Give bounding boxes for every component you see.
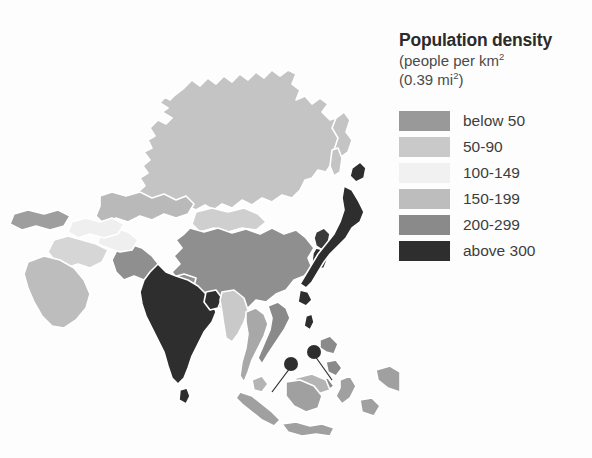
legend-swatch-50-90 <box>399 137 450 157</box>
legend-label-200-299: 200-299 <box>463 215 520 235</box>
region-russia <box>137 70 342 210</box>
region-taiwan <box>304 314 314 330</box>
map-legend: Population density (people per km2 (0.39… <box>399 30 589 264</box>
region-sri-lanka <box>179 388 190 404</box>
legend-row-50-90: 50-90 <box>399 134 589 160</box>
region-japan <box>298 162 366 306</box>
legend-subtitle-line-2: (0.39 mi2) <box>399 70 589 89</box>
legend-label-below-50: below 50 <box>463 111 525 131</box>
legend-row-200-299: 200-299 <box>399 212 589 238</box>
legend-row-100-149: 100-149 <box>399 160 589 186</box>
legend-label-100-149: 100-149 <box>463 163 520 183</box>
legend-label-150-199: 150-199 <box>463 189 520 209</box>
region-arabia <box>24 256 90 328</box>
legend-swatch-below-50 <box>399 111 450 131</box>
region-sakhalin <box>330 148 342 176</box>
legend-row-below-50: below 50 <box>399 108 589 134</box>
legend-swatch-100-149 <box>399 163 450 183</box>
legend-label-above-300: above 300 <box>463 241 535 261</box>
legend-subtitle-text-1: (people per km <box>399 52 499 69</box>
legend-subtitle-sup-1: 2 <box>499 51 504 62</box>
asia-map <box>0 0 400 458</box>
asia-map-svg <box>0 0 400 458</box>
legend-subtitle-line-1: (people per km2 <box>399 51 589 70</box>
region-mongolia <box>192 208 266 232</box>
legend-swatch-above-300 <box>399 241 450 261</box>
legend-row-150-199: 150-199 <box>399 186 589 212</box>
region-myanmar <box>220 290 248 342</box>
region-turkey <box>10 210 70 230</box>
legend-row-above-300: above 300 <box>399 238 589 264</box>
region-central-asia <box>68 218 124 238</box>
region-papua <box>376 366 400 392</box>
legend-swatch-150-199 <box>399 189 450 209</box>
legend-subtitle-text-2: (0.39 mi <box>399 71 453 88</box>
legend-items: below 50 50-90 100-149 150-199 200-299 a <box>399 108 589 264</box>
legend-title: Population density <box>399 30 589 50</box>
population-density-figure: Population density (people per km2 (0.39… <box>0 0 592 458</box>
legend-label-50-90: 50-90 <box>463 137 503 157</box>
legend-swatch-200-299 <box>399 215 450 235</box>
legend-subtitle-text-2-close: ) <box>458 71 463 88</box>
